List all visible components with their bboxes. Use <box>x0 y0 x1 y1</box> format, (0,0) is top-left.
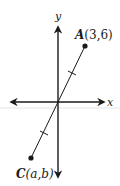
x-axis-label: x <box>107 96 114 109</box>
point-c-coords: (a,b) <box>26 167 54 181</box>
point-c-label: C(a,b) <box>16 167 54 181</box>
coordinate-diagram: x y A(3,6) C(a,b) <box>0 0 120 186</box>
point-c <box>28 155 33 160</box>
tick-mark-upper <box>68 71 76 75</box>
point-a-label: A(3,6) <box>74 28 113 42</box>
y-axis-label: y <box>54 10 62 23</box>
point-c-name: C <box>16 167 26 181</box>
point-a <box>82 43 87 48</box>
point-a-coords: (3,6) <box>84 28 112 42</box>
point-a-name: A <box>74 28 84 42</box>
